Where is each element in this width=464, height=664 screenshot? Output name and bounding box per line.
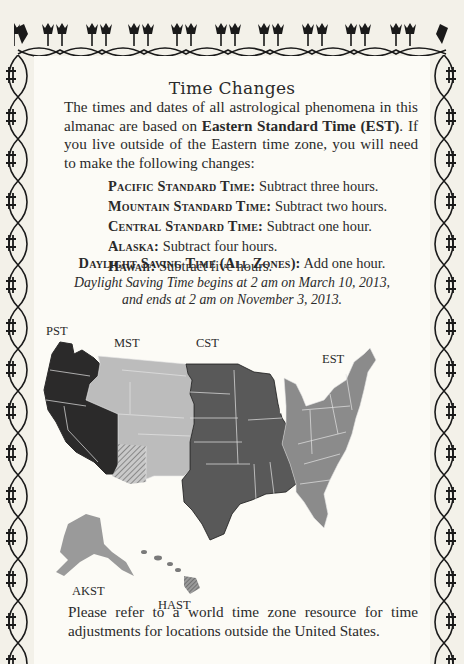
rule-change: Subtract two hours. — [275, 198, 387, 214]
zone-hast — [141, 550, 200, 594]
map-label-est: EST — [322, 352, 344, 367]
ornamental-left-border — [0, 55, 34, 664]
us-time-zone-map: PST MST CST EST AKST HAST — [34, 314, 430, 614]
rule-zone: Central Standard Time: — [108, 218, 263, 234]
map-label-cst: CST — [196, 336, 219, 351]
rule-zone: Alaska: — [108, 238, 159, 254]
almanac-page: Time Changes The times and dates of all … — [0, 0, 464, 664]
rule-zone: Pacific Standard Time: — [108, 178, 255, 194]
rule-mountain: Mountain Standard Time: Subtract two hou… — [108, 196, 387, 216]
intro-bold-est: Eastern Standard Time (EST) — [202, 117, 400, 134]
rule-alaska: Alaska: Subtract four hours. — [108, 236, 387, 256]
dst-dates-note: Daylight Saving Time begins at 2 am on M… — [34, 274, 430, 308]
time-zone-map-graphic — [34, 314, 430, 614]
rule-central: Central Standard Time: Subtract one hour… — [108, 216, 387, 236]
rule-zone: Mountain Standard Time: — [108, 198, 271, 214]
rule-pacific: Pacific Standard Time: Subtract three ho… — [108, 176, 387, 196]
map-label-mst: MST — [114, 336, 140, 351]
dst-note-line-2: and ends at 2 am on November 3, 2013. — [34, 291, 430, 308]
rule-change: Subtract four hours. — [163, 238, 278, 254]
content-panel: Time Changes The times and dates of all … — [34, 56, 430, 664]
zone-akst — [56, 514, 134, 576]
map-label-pst: PST — [46, 324, 68, 339]
dst-change: Add one hour. — [303, 255, 385, 271]
dst-rule: Daylight Saving Time (All Zones): Add on… — [34, 255, 430, 272]
zone-est — [282, 348, 376, 528]
dst-note-line-1: Daylight Saving Time begins at 2 am on M… — [34, 274, 430, 291]
dst-zone: Daylight Saving Time (All Zones): — [79, 255, 301, 271]
ornamental-right-border — [430, 55, 464, 664]
outro-paragraph: Please refer to a world time zone resour… — [68, 603, 418, 640]
rule-change: Subtract three hours. — [259, 178, 379, 194]
page-title: Time Changes — [34, 78, 430, 98]
rule-change: Subtract one hour. — [267, 218, 372, 234]
intro-paragraph: The times and dates of all astrological … — [64, 98, 418, 173]
ornamental-top-border — [14, 20, 450, 60]
map-label-akst: AKST — [72, 584, 105, 599]
